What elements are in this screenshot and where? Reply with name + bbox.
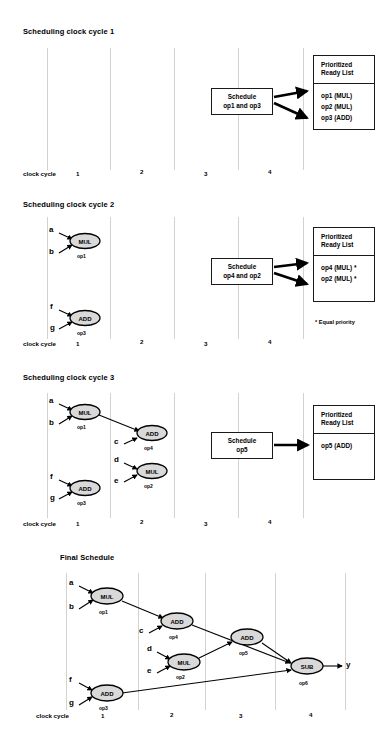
input-label: a (69, 578, 73, 587)
input-label: g (50, 323, 55, 332)
ready-list-header-line: Ready List (321, 241, 353, 248)
axis-label: clock cycle (23, 340, 56, 347)
list-item[interactable]: op2 (MUL) * (321, 273, 374, 284)
list-item[interactable]: op1 (MUL) (321, 90, 374, 101)
cycle-tick: 2 (140, 168, 143, 175)
op-label: op2 (176, 674, 185, 680)
schedule-box-line: op4 and op2 (223, 272, 261, 279)
op-label: op4 (169, 634, 178, 640)
input-label: b (49, 247, 54, 256)
panel-cycle-1: Scheduling clock cycle 1 Schedule op1 an… (0, 0, 385, 190)
ready-list-header: Prioritized Ready List (314, 406, 374, 434)
op-label: op3 (77, 500, 86, 506)
cycle-tick: 3 (204, 170, 207, 177)
ready-list-footnote: * Equal priority (315, 319, 355, 325)
op-label: op2 (144, 483, 153, 489)
ready-list-items: op4 (MUL) * op2 (MUL) * (314, 256, 374, 284)
panel-cycle-3: Scheduling clock cycle 3 MUL ADD MUL (0, 360, 385, 530)
op-label: op5 (239, 650, 248, 656)
ready-list-items: op5 (ADD) (314, 434, 374, 451)
input-label: b (49, 418, 54, 427)
output-label: y (346, 660, 350, 669)
svg-text:MUL: MUL (101, 594, 114, 600)
list-item[interactable]: op2 (MUL) (321, 101, 374, 112)
input-label: f (50, 472, 53, 481)
ready-list-header-line: Prioritized (321, 61, 352, 68)
svg-text:MUL: MUL (178, 660, 191, 666)
input-label: a (49, 396, 53, 405)
ready-list-header-line: Prioritized (321, 411, 352, 418)
input-label: d (147, 644, 152, 653)
cycle-tick: 4 (268, 168, 271, 175)
op-label: op1 (99, 609, 108, 615)
input-label: a (49, 225, 53, 234)
svg-text:MUL: MUL (146, 469, 159, 475)
input-label: e (114, 476, 118, 485)
schedule-box[interactable]: Schedule op4 and op2 (211, 258, 273, 285)
schedule-box-line: op5 (236, 446, 247, 453)
cycle-tick: 3 (204, 520, 207, 527)
input-label: f (50, 302, 53, 311)
ready-list-items: op1 (MUL) op2 (MUL) op3 (ADD) (314, 84, 374, 123)
ready-list-header-line: Prioritized (321, 233, 352, 240)
panel-cycle-2: Scheduling clock cycle 2 MUL ADD a b op1… (0, 195, 385, 360)
cycle-tick: 4 (268, 518, 271, 525)
svg-text:ADD: ADD (79, 316, 93, 322)
op-label: op4 (144, 445, 153, 451)
cycle-tick: 2 (140, 518, 143, 525)
svg-text:ADD: ADD (146, 431, 160, 437)
prioritized-ready-list: Prioritized Ready List op5 (ADD) (313, 405, 375, 480)
op-label: op6 (299, 680, 308, 686)
prioritized-ready-list: Prioritized Ready List op1 (MUL) op2 (MU… (313, 55, 375, 130)
svg-text:MUL: MUL (79, 239, 92, 245)
op-label: op1 (77, 253, 86, 259)
svg-text:ADD: ADD (101, 691, 115, 697)
svg-text:SUB: SUB (301, 664, 314, 670)
cycle-tick: 2 (170, 711, 173, 718)
input-label: g (50, 493, 55, 502)
cycle-tick: 1 (76, 340, 79, 347)
cycle-tick: 3 (204, 340, 207, 347)
axis-label: clock cycle (36, 712, 69, 719)
schedule-box[interactable]: Schedule op5 (211, 432, 273, 459)
input-label: e (147, 666, 151, 675)
input-label: g (69, 698, 74, 707)
svg-text:ADD: ADD (171, 619, 185, 625)
cycle-tick: 4 (309, 711, 312, 718)
panel-final-schedule: Final Schedule MUL ADD MUL ADD (0, 530, 385, 739)
list-item[interactable]: op3 (ADD) (321, 112, 374, 123)
cycle-tick: 4 (268, 338, 271, 345)
ready-list-header-line: Ready List (321, 69, 353, 76)
cycle-tick: 2 (140, 338, 143, 345)
schedule-box-line: Schedule (228, 263, 256, 270)
list-item[interactable]: op5 (ADD) (321, 440, 374, 451)
input-label: c (114, 437, 118, 446)
input-label: b (69, 602, 74, 611)
input-label: c (139, 626, 143, 635)
cycle-tick: 3 (239, 712, 242, 719)
dag-graph-final: MUL ADD MUL ADD ADD SUB (0, 530, 385, 739)
axis-label: clock cycle (23, 170, 56, 177)
svg-text:ADD: ADD (79, 486, 93, 492)
ready-list-header: Prioritized Ready List (314, 56, 374, 84)
cycle-tick: 1 (101, 712, 104, 719)
op-label: op3 (99, 705, 108, 711)
op-label: op3 (77, 330, 86, 336)
svg-text:MUL: MUL (79, 410, 92, 416)
list-item[interactable]: op4 (MUL) * (321, 262, 374, 273)
cycle-tick: 1 (76, 170, 79, 177)
ready-list-header: Prioritized Ready List (314, 228, 374, 256)
ready-list-header-line: Ready List (321, 419, 353, 426)
input-label: f (69, 675, 72, 684)
axis-label: clock cycle (23, 520, 56, 527)
op-label: op1 (77, 424, 86, 430)
prioritized-ready-list: Prioritized Ready List op4 (MUL) * op2 (… (313, 227, 375, 302)
cycle-tick: 1 (76, 520, 79, 527)
svg-text:ADD: ADD (241, 635, 255, 641)
schedule-box-line: Schedule (228, 437, 256, 444)
input-label: d (114, 455, 119, 464)
